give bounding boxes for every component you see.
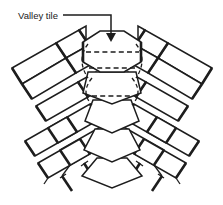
tile-stub [152,176,162,191]
tile-stub [62,176,72,191]
valley-tile-2 [83,72,141,104]
tile-stub [44,178,48,184]
tile-diagram-canvas: Valley tile [0,0,223,205]
tile-stub [176,178,180,184]
valley-tile-column [82,31,142,188]
valley-tile-diagram: Valley tile [0,0,223,205]
valley-tile-3 [85,100,139,133]
valley-tile-4 [84,129,140,162]
valley-tile-label: Valley tile [18,10,58,21]
